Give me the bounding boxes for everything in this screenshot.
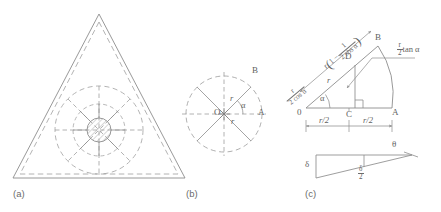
panel-c-dim-left-label: r/2 xyxy=(319,116,329,125)
tan-text: tan α xyxy=(403,44,420,54)
panel-c-point-a-label: A xyxy=(392,108,399,117)
panel-c-wedge-artwork xyxy=(316,152,418,178)
panel-b-artwork xyxy=(182,72,266,156)
panel-c-radius-label: r xyxy=(327,76,330,85)
half-delta-denominator: 2 xyxy=(358,173,364,181)
wedge-half-delta-label: δ 2 xyxy=(358,166,364,182)
panel-b-radius-label: r xyxy=(230,94,233,103)
panel-b-point-b-label: B xyxy=(252,66,258,75)
panel-b-caption: (b) xyxy=(186,188,198,199)
half-delta-numerator: δ xyxy=(358,166,364,173)
panel-c-dim-right-label: r/2 xyxy=(363,116,373,125)
wedge-theta-label: θ xyxy=(392,140,396,149)
panel-c-caption: (c) xyxy=(305,188,316,199)
panel-a-artwork xyxy=(13,14,185,178)
panel-b-center-label: O xyxy=(214,108,221,117)
panel-c-point-c-label: C xyxy=(346,110,352,119)
panel-c-angle-label: α xyxy=(320,94,324,103)
panel-c-point-b-label: B xyxy=(375,33,381,42)
panel-b-point-a-label: A xyxy=(258,108,265,117)
panel-b-radius-label-2: r xyxy=(231,117,234,126)
figure-container: (a) (b) (c) O A B r r α 0 A B C D α r r/… xyxy=(0,0,441,212)
panel-c-origin-label: 0 xyxy=(297,108,302,117)
panel-b-angle-label: α xyxy=(241,101,245,110)
panel-c-tan-length-label: r 2 tan α xyxy=(397,42,420,58)
wedge-delta-label: δ xyxy=(305,160,309,169)
panel-a-caption: (a) xyxy=(13,188,25,199)
